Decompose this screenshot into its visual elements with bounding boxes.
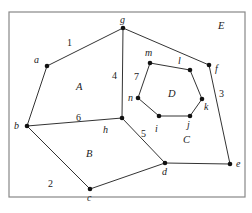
face-label-E: E (217, 20, 225, 31)
vertex-label-a: a (34, 54, 39, 65)
vertex-label-e: e (236, 158, 241, 169)
face-label-D: D (167, 88, 176, 99)
vertex-label-j: j (185, 119, 190, 130)
edge-label-4: 4 (112, 70, 117, 81)
vertex-c (88, 187, 93, 192)
vertex-g (121, 26, 126, 31)
face-label-A: A (75, 81, 83, 92)
edge-l-k (190, 70, 202, 99)
edge-d-e (165, 163, 230, 164)
edge-f-e (209, 65, 230, 164)
edge-m-l (150, 63, 190, 70)
vertex-label-c: c (87, 192, 92, 203)
vertex-j (188, 114, 193, 119)
edge-g-f (123, 28, 209, 65)
edge-label-1: 1 (67, 37, 72, 48)
vertex-label-k: k (204, 101, 209, 112)
edge-label-3: 3 (219, 88, 224, 99)
vertex-labels-layer: abcdefghijklmn (14, 14, 241, 203)
vertex-label-l: l (178, 55, 181, 66)
vertex-label-i: i (155, 123, 158, 134)
edge-a-g (47, 28, 123, 66)
vertex-label-m: m (145, 47, 152, 58)
edges-layer (27, 28, 230, 189)
edge-h-d (122, 118, 165, 163)
vertex-label-h: h (103, 124, 108, 135)
vertex-label-n: n (128, 92, 133, 103)
vertices-layer (25, 26, 233, 192)
edge-label-6: 6 (76, 112, 81, 123)
vertex-h (120, 116, 125, 121)
edge-b-c (27, 126, 90, 189)
planar-graph-diagram: abcdefghijklmn 1234567 ABCDE (0, 0, 252, 213)
diagram-frame (9, 12, 245, 197)
edge-g-h (122, 28, 123, 118)
edge-k-j (190, 99, 202, 116)
edge-label-5: 5 (141, 128, 146, 139)
edge-i-n (138, 98, 159, 116)
edge-a-b (27, 66, 47, 126)
vertex-b (25, 124, 30, 129)
vertex-label-g: g (120, 14, 125, 25)
vertex-n (136, 96, 141, 101)
face-label-B: B (86, 148, 93, 159)
vertex-l (188, 68, 193, 73)
edge-label-7: 7 (134, 71, 139, 82)
vertex-label-f: f (215, 63, 219, 74)
vertex-e (228, 162, 233, 167)
vertex-i (157, 114, 162, 119)
vertex-d (163, 161, 168, 166)
vertex-label-b: b (14, 120, 19, 131)
face-label-C: C (183, 134, 191, 145)
edge-c-d (90, 163, 165, 189)
vertex-m (148, 61, 153, 66)
edge-label-2: 2 (48, 178, 53, 189)
vertex-label-d: d (162, 166, 168, 177)
edge-n-m (138, 63, 150, 98)
vertex-f (207, 63, 212, 68)
vertex-a (45, 64, 50, 69)
